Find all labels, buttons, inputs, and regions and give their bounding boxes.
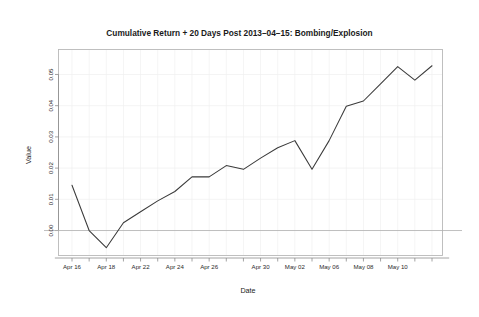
x-tick-label: Apr 26 (200, 263, 219, 270)
x-tick-label: Apr 30 (252, 263, 271, 270)
x-tick-label: May 06 (319, 263, 340, 270)
x-tick-label: Apr 24 (166, 263, 185, 270)
y-tick-label: 0.01 (47, 193, 54, 205)
y-tick-label: 0.00 (47, 224, 54, 236)
x-tick-label: May 10 (388, 263, 409, 270)
x-tick-label: Apr 18 (97, 263, 116, 270)
chart-title: Cumulative Return + 20 Days Post 2013–04… (106, 28, 372, 38)
x-axis-title: Date (240, 286, 255, 295)
x-tick-label: Apr 16 (63, 263, 82, 270)
y-tick-label: 0.05 (47, 68, 54, 80)
chart-figure: Cumulative Return + 20 Days Post 2013–04… (0, 0, 479, 317)
x-tick-label: May 08 (353, 263, 374, 270)
x-tick-label: May 02 (285, 263, 306, 270)
y-tick-label: 0.03 (47, 130, 54, 142)
cumulative-return-line-chart: Cumulative Return + 20 Days Post 2013–04… (0, 0, 479, 317)
y-tick-label: 0.02 (47, 162, 54, 174)
y-tick-label: 0.04 (47, 99, 54, 111)
x-tick-label: Apr 22 (132, 263, 151, 270)
y-axis-title: Value (24, 146, 33, 164)
